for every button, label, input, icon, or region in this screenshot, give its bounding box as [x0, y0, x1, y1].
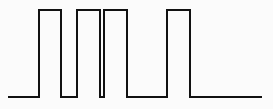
pulse-waveform-plot — [0, 0, 273, 109]
waveform-figure — [0, 0, 273, 109]
plot-background — [0, 0, 273, 109]
